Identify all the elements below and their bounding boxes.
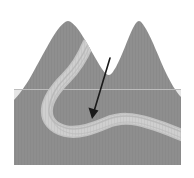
block-diagram-svg: Block diagram of two mountain peaks with… (0, 0, 194, 178)
figure-root: Block diagram of two mountain peaks with… (0, 0, 194, 178)
